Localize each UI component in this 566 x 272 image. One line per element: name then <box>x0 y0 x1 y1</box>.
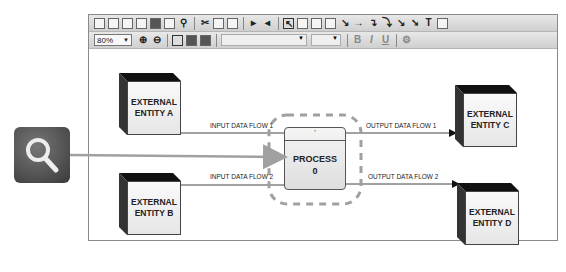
copy-icon[interactable] <box>213 18 224 29</box>
separator <box>347 34 348 47</box>
zoom-in-icon[interactable]: ⊕ <box>137 35 148 46</box>
external-entity-b[interactable]: EXTERNALENTITY B <box>119 173 181 235</box>
open-icon[interactable] <box>136 18 147 29</box>
diagram-canvas[interactable]: EXTERNALENTITY A EXTERNALENTITY B EXTERN… <box>89 49 557 240</box>
separator <box>396 34 397 47</box>
external-entity-a[interactable]: EXTERNALENTITY A <box>119 73 181 135</box>
format-icon[interactable]: ⚙ <box>401 35 412 46</box>
undo-icon[interactable]: ◂ <box>262 18 273 29</box>
external-entity-c[interactable]: EXTERNALENTITY C <box>455 85 517 147</box>
external-entity-d[interactable]: EXTERNALENTITY D <box>457 183 519 245</box>
font-name-select[interactable]: ▼ <box>221 34 307 46</box>
stack-icon[interactable] <box>311 18 322 29</box>
separator <box>278 17 279 30</box>
separator <box>194 17 195 30</box>
output-flow-1-label: OUTPUT DATA FLOW 1 <box>366 122 436 129</box>
find-icon[interactable]: ⚲ <box>178 18 189 29</box>
process-node[interactable]: ' PROCESS 0 <box>284 127 346 190</box>
separator <box>243 17 244 30</box>
blank-page-icon[interactable] <box>122 18 133 29</box>
output-flow-2-label: OUTPUT DATA FLOW 2 <box>368 173 438 180</box>
text-icon[interactable]: T <box>423 18 434 29</box>
underline-button[interactable]: U <box>380 35 391 46</box>
box-icon[interactable] <box>325 18 336 29</box>
main-toolbar: ⚲ ✂ ▸ ◂ ↖ ↘ → ↴ ⤵ ↘ ➘ T <box>89 15 557 32</box>
view-fill-icon[interactable] <box>186 35 197 46</box>
curve-connector-icon[interactable]: ⤵ <box>381 18 392 29</box>
input-flow-2-label: INPUT DATA FLOW 2 <box>210 173 273 180</box>
new-icon[interactable] <box>94 18 105 29</box>
bold-connector-icon[interactable]: ➘ <box>409 18 420 29</box>
rectangle-icon[interactable] <box>297 18 308 29</box>
chevron-down-icon: ▼ <box>298 35 304 41</box>
diagonal-connector-icon[interactable]: ↘ <box>395 18 406 29</box>
italic-button[interactable]: I <box>366 35 377 46</box>
process-header: ' <box>285 128 345 141</box>
zoom-out-icon[interactable]: ⊖ <box>151 35 162 46</box>
line-icon[interactable]: ↘ <box>339 18 350 29</box>
page-icon[interactable] <box>108 18 119 29</box>
image-icon[interactable] <box>437 18 448 29</box>
diagram-editor-window: ⚲ ✂ ▸ ◂ ↖ ↘ → ↴ ⤵ ↘ ➘ T 80%▼ ⊕ ⊖ ▼ ▼ B I… <box>88 14 558 241</box>
separator <box>167 34 168 47</box>
chevron-down-icon: ▼ <box>123 35 129 46</box>
search-icon <box>14 127 70 183</box>
process-number: 0 <box>285 165 345 177</box>
process-title: PROCESS <box>285 153 345 165</box>
separator <box>216 34 217 47</box>
bold-button[interactable]: B <box>352 35 363 46</box>
magnifier-icon <box>14 127 70 183</box>
arrow-icon[interactable]: → <box>353 18 364 29</box>
chevron-down-icon: ▼ <box>332 35 338 41</box>
cut-icon[interactable]: ✂ <box>199 18 210 29</box>
elbow-connector-icon[interactable]: ↴ <box>367 18 378 29</box>
print-icon[interactable] <box>164 18 175 29</box>
paste-icon[interactable] <box>227 18 238 29</box>
zoom-select[interactable]: 80%▼ <box>94 34 132 46</box>
view-shadow-icon[interactable] <box>200 35 211 46</box>
input-flow-1-label: INPUT DATA FLOW 1 <box>210 122 273 129</box>
format-toolbar: 80%▼ ⊕ ⊖ ▼ ▼ B I U ⚙ <box>89 32 557 49</box>
font-size-select[interactable]: ▼ <box>311 34 341 46</box>
import-icon[interactable]: ▸ <box>248 18 259 29</box>
view-normal-icon[interactable] <box>172 35 183 46</box>
pointer-icon[interactable]: ↖ <box>283 18 294 29</box>
save-icon[interactable] <box>150 18 161 29</box>
